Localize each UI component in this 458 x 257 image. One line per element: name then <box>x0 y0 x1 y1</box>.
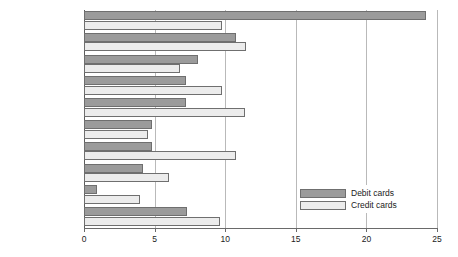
bar-debit <box>84 142 152 151</box>
legend-swatch-credit <box>300 201 346 210</box>
bar-debit <box>84 33 236 42</box>
bar-credit <box>84 86 222 95</box>
gridline-25 <box>437 10 438 228</box>
x-tick-label: 25 <box>425 234 449 244</box>
bar-debit <box>84 164 143 173</box>
legend-label: Credit cards <box>351 200 397 210</box>
tick-mark <box>155 228 156 232</box>
bar-debit <box>84 11 426 20</box>
bar-credit <box>84 173 169 182</box>
legend-item: Debit cards <box>300 188 397 198</box>
bar-credit <box>84 195 140 204</box>
x-axis-line <box>84 228 438 229</box>
bar-credit <box>84 108 245 117</box>
tick-mark <box>366 228 367 232</box>
bar-credit <box>84 64 180 73</box>
tick-mark <box>437 228 438 232</box>
legend-swatch-debit <box>300 189 346 198</box>
bar-debit <box>84 76 186 85</box>
bar-credit <box>84 151 236 160</box>
tick-mark <box>296 228 297 232</box>
x-tick-label: 10 <box>213 234 237 244</box>
bar-credit <box>84 217 220 226</box>
bar-credit <box>84 21 222 30</box>
x-tick-label: 20 <box>354 234 378 244</box>
tick-mark <box>225 228 226 232</box>
bar-debit <box>84 98 186 107</box>
x-tick-label: 0 <box>72 234 96 244</box>
bar-debit <box>84 120 152 129</box>
tick-mark <box>84 228 85 232</box>
bar-debit <box>84 207 187 216</box>
bar-chart: Food and drinkMotoringMixed businessHous… <box>0 0 458 257</box>
legend-label: Debit cards <box>351 188 394 198</box>
bar-credit <box>84 42 246 51</box>
x-tick-label: 15 <box>284 234 308 244</box>
bar-credit <box>84 130 148 139</box>
chart-legend: Debit cardsCredit cards <box>297 185 401 213</box>
bar-debit <box>84 55 198 64</box>
x-tick-label: 5 <box>143 234 167 244</box>
legend-item: Credit cards <box>300 200 397 210</box>
bar-debit <box>84 185 97 194</box>
